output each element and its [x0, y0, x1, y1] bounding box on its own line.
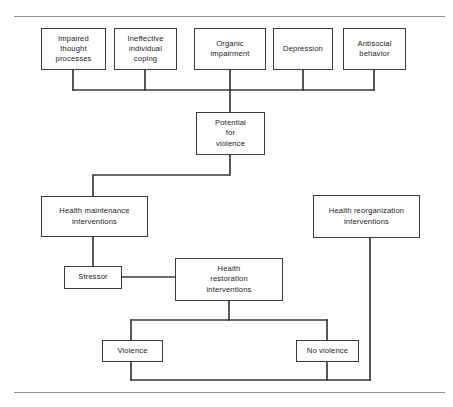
node-depression: Depression [273, 28, 333, 70]
node-stressor: Stressor [64, 266, 122, 289]
node-label: Violence [117, 346, 147, 356]
node-label: Stressor [78, 272, 108, 282]
node-label: Health reorganization interventions [329, 206, 404, 226]
node-label: No violence [307, 346, 348, 356]
node-organic-impairment: Organic impairment [194, 28, 266, 70]
node-label: Impaired thought processes [56, 34, 92, 64]
node-no-violence: No violence [296, 340, 359, 362]
node-label: Health restoration interventions [206, 264, 251, 294]
node-label: Health maintenance interventions [59, 206, 129, 226]
node-label: Potential for violence [215, 118, 246, 148]
node-ineffective-individual-coping: Ineffective individual coping [114, 28, 177, 70]
node-health-reorganization-interventions: Health reorganization interventions [313, 195, 420, 238]
node-violence: Violence [102, 340, 163, 362]
figure-canvas: Impaired thought processesIneffective in… [0, 0, 453, 407]
node-label: Organic impairment [210, 39, 249, 59]
node-health-restoration-interventions: Health restoration interventions [175, 258, 283, 301]
node-impaired-thought-processes: Impaired thought processes [41, 28, 106, 70]
node-antisocial-behavior: Antisocial behavior [343, 28, 406, 70]
node-label: Antisocial behavior [357, 39, 391, 59]
bottom-rule [14, 392, 445, 393]
node-label: Depression [283, 44, 323, 54]
node-health-maintenance-interventions: Health maintenance interventions [41, 196, 148, 237]
node-potential-for-violence: Potential for violence [196, 112, 265, 155]
node-label: Ineffective individual coping [127, 34, 163, 64]
connector-potential-to-maintenance [93, 155, 230, 196]
top-rule [14, 16, 445, 17]
